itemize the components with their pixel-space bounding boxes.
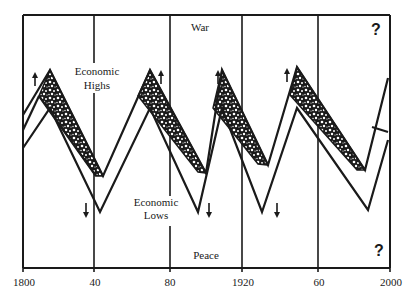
highs-label-line2: Highs	[84, 79, 110, 91]
down-arrows	[83, 203, 280, 218]
x-axis-ticks: 1800 40 80 1920 60 2000	[13, 276, 403, 288]
arrow-up-icon	[158, 70, 164, 84]
band-3	[213, 70, 268, 165]
x-tick-label: 1800	[13, 276, 36, 288]
x-tick-label: 1920	[232, 276, 255, 288]
x-tick-label: 40	[90, 276, 102, 288]
war-label: War	[191, 21, 209, 33]
question-mark-bottom: ?	[374, 242, 384, 259]
arrow-down-icon	[206, 203, 212, 218]
up-arrows	[32, 68, 290, 86]
question-mark-top: ?	[371, 21, 381, 38]
arrow-up-icon	[284, 68, 290, 82]
lows-label-line1: Economic	[134, 196, 179, 208]
economic-war-cycle-diagram: Economic Highs Economic Lows War Peace ?…	[0, 0, 416, 301]
peace-label: Peace	[193, 249, 219, 261]
lows-label-line2: Lows	[144, 209, 168, 221]
highs-label-line1: Economic	[75, 65, 120, 77]
arrow-up-icon	[32, 72, 38, 86]
arrow-down-icon	[274, 203, 280, 218]
x-tick-label: 80	[165, 276, 177, 288]
x-tick-label: 2000	[380, 276, 403, 288]
x-tick-label: 60	[314, 276, 326, 288]
arrow-down-icon	[83, 203, 89, 218]
